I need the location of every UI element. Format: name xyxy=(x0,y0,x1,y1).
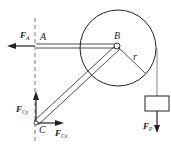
force-fp-arrowhead xyxy=(154,125,160,133)
label-fp: F P xyxy=(142,121,153,132)
force-fcy-arrowhead xyxy=(33,91,39,100)
pin-c xyxy=(34,121,38,125)
svg-text:F: F xyxy=(15,104,22,114)
force-fa-arrowhead xyxy=(7,43,16,49)
svg-text:F: F xyxy=(54,128,61,138)
svg-text:Cx: Cx xyxy=(61,133,68,139)
svg-text:F: F xyxy=(19,30,26,40)
svg-text:P: P xyxy=(148,126,153,132)
svg-text:Cy: Cy xyxy=(22,109,29,115)
label-fcy: F Cy xyxy=(15,104,29,115)
label-fa: F A xyxy=(19,30,30,41)
free-body-diagram: A B C r F A F Cy F Cx F P xyxy=(0,0,171,153)
force-fcx-arrowhead xyxy=(55,120,64,126)
label-c: C xyxy=(39,124,46,135)
hanging-block xyxy=(145,96,169,111)
label-fcx: F Cx xyxy=(54,128,68,139)
label-b: B xyxy=(114,30,120,41)
rod-bc-lower xyxy=(38,49,120,125)
label-r: r xyxy=(133,51,137,62)
label-a: A xyxy=(39,31,47,42)
radius-line xyxy=(118,47,145,73)
svg-text:A: A xyxy=(25,35,30,41)
svg-text:F: F xyxy=(142,121,149,131)
